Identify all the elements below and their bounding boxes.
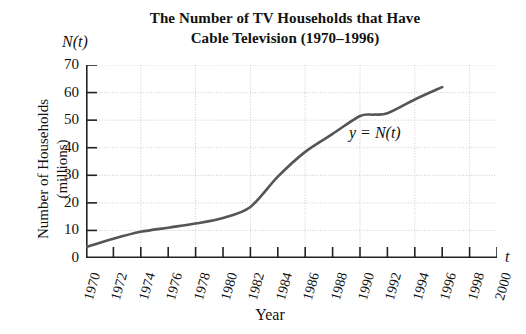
x-axis-title: Year <box>215 306 325 324</box>
x-tick-label: 2000 <box>493 271 514 302</box>
chart-figure: The Number of TV Households that Have Ca… <box>0 0 526 334</box>
y-tick-label: 40 <box>49 140 79 155</box>
y-axis-variable-label: N(t) <box>62 33 88 51</box>
x-tick-label: 1988 <box>329 271 350 302</box>
y-tick-label: 50 <box>49 112 79 127</box>
plot-area <box>86 65 497 258</box>
axis-lines <box>86 65 497 258</box>
x-tick-label: 1978 <box>192 271 213 302</box>
x-tick-label: 1976 <box>164 271 185 302</box>
chart-title-line-2: Cable Television (1970–1996) <box>120 28 450 48</box>
x-tick-label: 1998 <box>466 271 487 302</box>
chart-title: The Number of TV Households that Have Ca… <box>120 8 450 48</box>
gridlines <box>86 65 497 258</box>
y-tick-label: 20 <box>49 195 79 210</box>
tick-marks <box>86 65 497 258</box>
y-tick-label: 0 <box>49 250 79 265</box>
curve-annotation: y = N(t) <box>349 124 401 142</box>
x-tick-label: 1984 <box>274 271 295 302</box>
x-tick-label: 1972 <box>109 271 130 302</box>
x-tick-label: 1982 <box>246 271 267 302</box>
chart-title-line-1: The Number of TV Households that Have <box>120 8 450 28</box>
x-axis-variable-label: t <box>505 248 509 266</box>
x-tick-label: 1970 <box>82 271 103 302</box>
x-tick-label: 1990 <box>356 271 377 302</box>
x-tick-label: 1996 <box>438 271 459 302</box>
x-tick-label: 1974 <box>137 271 158 302</box>
x-tick-label: 1986 <box>301 271 322 302</box>
y-tick-label: 30 <box>49 167 79 182</box>
data-curve-line <box>86 87 442 247</box>
y-tick-label: 10 <box>49 222 79 237</box>
y-tick-label: 70 <box>49 57 79 72</box>
x-tick-label: 1994 <box>411 271 432 302</box>
y-tick-label: 60 <box>49 85 79 100</box>
plot-svg <box>86 65 497 258</box>
x-tick-label: 1992 <box>383 271 404 302</box>
x-tick-label: 1980 <box>219 271 240 302</box>
